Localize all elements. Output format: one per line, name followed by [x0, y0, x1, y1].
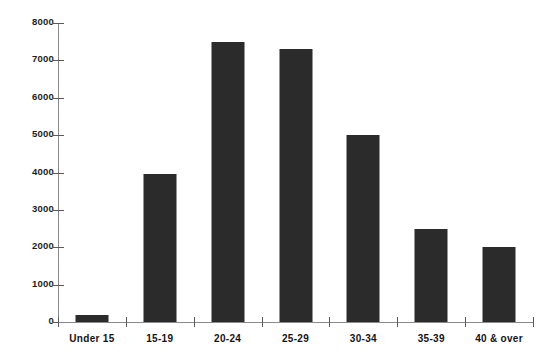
bar	[75, 315, 108, 322]
y-axis-tick-label: 8000	[32, 16, 54, 27]
plot-area: 010002000300040005000600070008000 Under …	[0, 0, 541, 360]
y-axis-tick-label: 1000	[32, 278, 54, 289]
bar	[483, 247, 516, 322]
y-axis-tick-mark	[52, 135, 64, 136]
bar	[415, 229, 448, 322]
x-axis-line	[58, 322, 533, 323]
y-axis-tick-mark	[52, 173, 64, 174]
x-axis-tick-mark	[397, 317, 398, 327]
x-axis-tick-mark	[58, 317, 59, 327]
x-axis-tick-label: 15-19	[146, 333, 173, 344]
bar-chart: 010002000300040005000600070008000 Under …	[0, 0, 541, 360]
bar	[279, 49, 312, 322]
y-axis-tick-label: 4000	[32, 166, 54, 177]
y-axis-tick-label: 2000	[32, 240, 54, 251]
y-axis-tick-mark	[52, 285, 64, 286]
bar	[211, 42, 244, 322]
x-axis-tick-label: 40 & over	[475, 333, 523, 344]
x-axis-tick-label: 25-29	[282, 333, 309, 344]
bar	[347, 135, 380, 322]
x-axis-tick-mark	[465, 317, 466, 327]
x-axis-tick-mark	[533, 317, 534, 327]
x-axis-tick-label: 30-34	[350, 333, 377, 344]
x-axis-tick-label: 35-39	[418, 333, 445, 344]
y-axis-tick-mark	[52, 60, 64, 61]
y-axis-tick-mark	[52, 210, 64, 211]
bar	[143, 174, 176, 322]
y-axis-tick-mark	[52, 98, 64, 99]
y-axis-tick-label: 5000	[32, 128, 54, 139]
x-axis-tick-mark	[126, 317, 127, 327]
y-axis-tick-mark	[52, 247, 64, 248]
y-axis-tick-label: 0	[49, 315, 54, 326]
y-axis-tick-mark	[52, 23, 64, 24]
x-axis-tick-label: Under 15	[69, 333, 114, 344]
x-axis-tick-mark	[262, 317, 263, 327]
y-axis-tick-label: 3000	[32, 203, 54, 214]
y-axis-tick-label: 7000	[32, 53, 54, 64]
x-axis-tick-label: 20-24	[214, 333, 241, 344]
y-axis-tick-label: 6000	[32, 91, 54, 102]
x-axis-tick-mark	[329, 317, 330, 327]
x-axis-tick-mark	[194, 317, 195, 327]
